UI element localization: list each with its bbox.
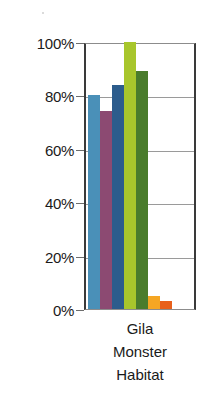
tickmark-0 — [76, 310, 84, 311]
scan-artifact-speck — [42, 12, 44, 14]
x-axis-label-line-3: Habitat — [84, 364, 196, 387]
bar-series-6[interactable] — [148, 296, 160, 309]
plot-area — [84, 43, 196, 310]
tickmark-40 — [76, 203, 84, 204]
tickmark-60 — [76, 150, 84, 151]
tickmark-80 — [76, 96, 84, 97]
bar-series-2[interactable] — [100, 111, 112, 309]
x-axis-label-line-2: Monster — [84, 341, 196, 364]
y-axis-tickmarks — [0, 43, 84, 310]
bar-series-4[interactable] — [124, 42, 136, 309]
x-axis-label-line-1: Gila — [84, 318, 196, 341]
bar-series-1[interactable] — [88, 95, 100, 309]
x-axis-label: Gila Monster Habitat — [84, 318, 196, 386]
bar-series-7[interactable] — [160, 301, 172, 309]
tickmark-20 — [76, 257, 84, 258]
bar-series-3[interactable] — [112, 85, 124, 309]
bar-series-5[interactable] — [136, 71, 148, 309]
bar-group — [86, 44, 194, 309]
tickmark-100 — [76, 43, 84, 44]
bar-chart: 100% 80% 60% 40% 20% 0% Gila Mon — [0, 0, 217, 407]
